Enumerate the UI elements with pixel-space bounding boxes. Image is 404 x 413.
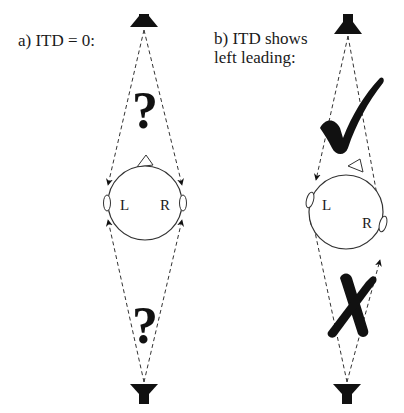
question-mark-icon: ? xyxy=(132,82,158,139)
rear-speaker-icon xyxy=(130,384,158,404)
front-speaker-icon xyxy=(334,14,362,34)
panel-a: L R ? ? xyxy=(104,14,187,404)
right-ear-label: R xyxy=(160,197,170,213)
cross-mark-icon xyxy=(328,274,377,338)
right-ear xyxy=(180,195,187,211)
question-mark-icon: ? xyxy=(132,297,158,354)
left-ear xyxy=(104,195,111,211)
head-icon: L R xyxy=(104,155,187,240)
panel-b: L R xyxy=(305,14,389,404)
left-ear-label: L xyxy=(322,197,331,213)
right-ear-label: R xyxy=(362,215,372,231)
left-ear-label: L xyxy=(120,197,129,213)
front-speaker-icon xyxy=(130,14,158,27)
check-mark-icon xyxy=(320,77,384,154)
rear-speaker-icon xyxy=(333,384,361,404)
head-icon: L R xyxy=(305,159,389,249)
itd-diagram: L R ? ? xyxy=(0,0,404,413)
